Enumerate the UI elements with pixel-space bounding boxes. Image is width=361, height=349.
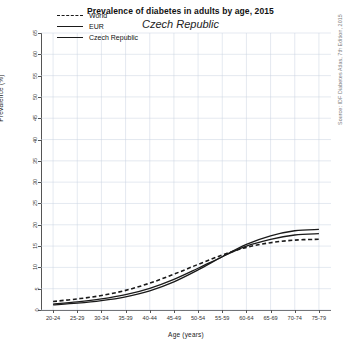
legend-item[interactable]: EUR <box>57 21 138 32</box>
legend-label: World <box>89 12 107 19</box>
legend-label: Czech Republic <box>89 34 138 41</box>
legend-swatch-solid-icon <box>57 33 83 42</box>
legend-swatch-dashed-icon <box>57 11 83 20</box>
chart-legend: WorldEURCzech Republic <box>55 8 142 45</box>
source-note: Source: IDF Diabetes Atlas, 7th Edition,… <box>337 0 343 125</box>
y-axis-label: Prevalence (%) <box>0 48 4 148</box>
legend-swatch-solid-icon <box>57 22 83 31</box>
legend-item[interactable]: Czech Republic <box>57 32 138 43</box>
plot-area: 05101520253035404550556065 20-2425-2930-… <box>41 33 331 310</box>
x-axis-label: Age (years) <box>41 331 331 338</box>
chart-figure: Prevalence of diabetes in adults by age,… <box>0 0 361 349</box>
series-lines <box>41 33 331 310</box>
legend-item[interactable]: World <box>57 10 138 21</box>
legend-label: EUR <box>89 23 104 30</box>
